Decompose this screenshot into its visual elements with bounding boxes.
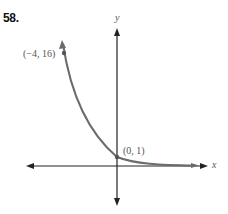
x-axis-label: x [212,159,216,170]
graph [0,0,228,214]
point-label-0-1: (0, 1) [123,145,145,156]
y-axis-label: y [115,12,119,23]
point-label-neg4-16: (−4, 16) [23,48,55,59]
point-0-1 [115,155,119,159]
y-axis [114,28,120,206]
point-neg4-16 [62,51,66,55]
